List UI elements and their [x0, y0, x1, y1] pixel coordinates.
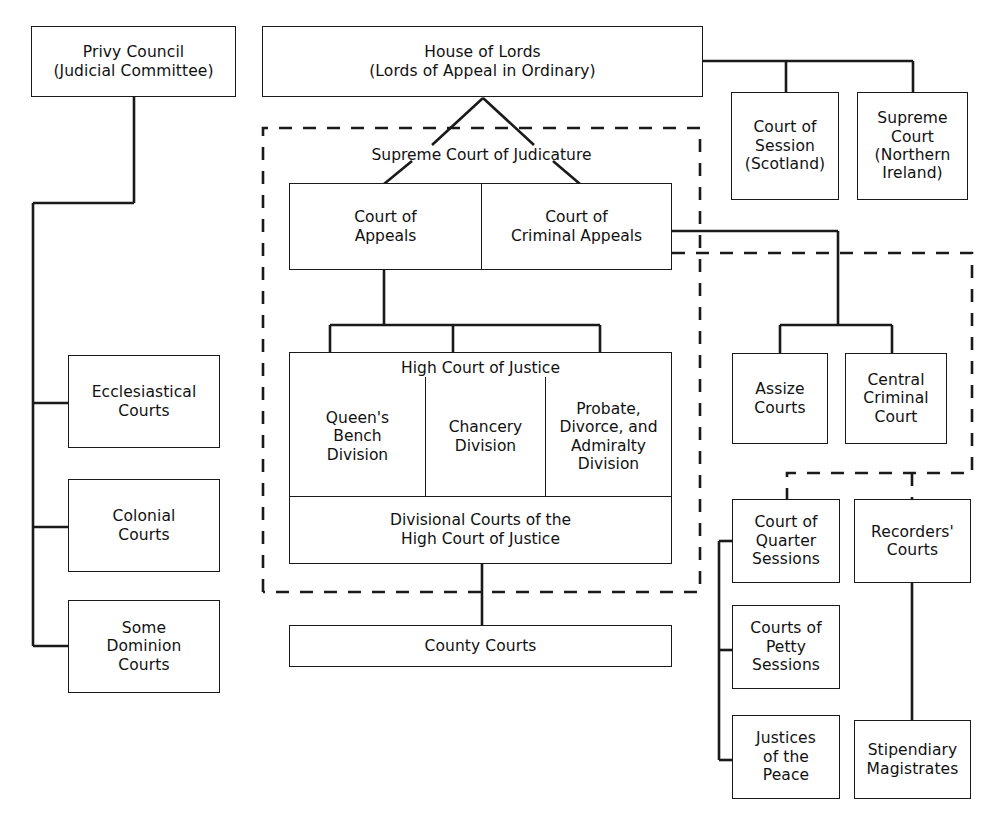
central-criminal-line-3: Court [874, 408, 917, 426]
quarter-sessions-line-3: Sessions [752, 550, 820, 568]
probate-line-2: Divorce, and [559, 418, 657, 436]
probate-line-3: Admiralty [571, 437, 646, 455]
node-county-courts[interactable]: County Courts [289, 625, 672, 667]
assize-line-2: Courts [754, 399, 805, 417]
node-stipendiary-magistrates[interactable]: Stipendiary Magistrates [854, 720, 971, 799]
court-of-session-line-3: (Scotland) [745, 155, 825, 173]
edge-lords-to-criminal-appeals [483, 98, 534, 145]
edge-judicature-to-court-of-appeals [384, 161, 412, 184]
high-court-title: High Court of Justice [290, 353, 671, 377]
criminal-appeals-line-2: Criminal Appeals [511, 227, 642, 245]
petty-sessions-line-2: Petty [766, 638, 806, 656]
colonial-line-2: Courts [118, 526, 169, 544]
court-of-appeals-line-2: Appeals [355, 227, 417, 245]
node-recorders-courts[interactable]: Recorders' Courts [854, 499, 971, 583]
colonial-line-1: Colonial [113, 507, 176, 525]
node-assize-courts[interactable]: Assize Courts [732, 353, 828, 444]
node-court-of-appeals[interactable]: Court of Appeals [290, 184, 481, 269]
petty-sessions-line-3: Sessions [752, 656, 820, 674]
court-of-session-line-1: Court of [753, 118, 816, 136]
node-court-of-quarter-sessions[interactable]: Court of Quarter Sessions [732, 499, 840, 583]
county-courts-line-1: County Courts [424, 637, 536, 655]
probate-line-4: Division [578, 455, 639, 473]
probate-line-1: Probate, [576, 400, 640, 418]
chancery-line-1: Chancery [449, 418, 523, 436]
high-court-of-justice-group: High Court of Justice Queen's Bench Divi… [289, 352, 672, 564]
divisional-courts-line-1: Divisional Courts of the [390, 511, 571, 530]
stipendiary-line-1: Stipendiary [868, 741, 958, 759]
node-supreme-court-northern-ireland[interactable]: Supreme Court (Northern Ireland) [857, 92, 968, 200]
ecclesiastical-line-2: Courts [118, 402, 169, 420]
node-court-of-criminal-appeals[interactable]: Court of Criminal Appeals [481, 184, 671, 269]
node-divisional-courts[interactable]: Divisional Courts of the High Court of J… [290, 497, 671, 563]
queens-bench-line-2: Bench [333, 427, 381, 445]
privy-council-line-2: (Judicial Committee) [53, 62, 213, 80]
assize-line-1: Assize [755, 380, 804, 398]
node-chancery-division[interactable]: Chancery Division [425, 377, 545, 496]
node-ecclesiastical-courts[interactable]: Ecclesiastical Courts [68, 355, 220, 448]
supreme-court-ni-line-3: (Northern [875, 146, 951, 164]
house-of-lords-line-2: (Lords of Appeal in Ordinary) [369, 62, 596, 80]
appeals-courts-group: Court of Appeals Court of Criminal Appea… [289, 183, 672, 270]
node-colonial-courts[interactable]: Colonial Courts [68, 479, 220, 572]
edge-lords-to-court-of-appeals [432, 98, 483, 145]
recorders-line-2: Courts [887, 541, 938, 559]
dominion-line-2: Dominion [106, 637, 181, 655]
privy-council-line-1: Privy Council [83, 43, 184, 61]
justices-line-3: Peace [763, 766, 809, 784]
node-courts-of-petty-sessions[interactable]: Courts of Petty Sessions [732, 605, 840, 689]
node-central-criminal-court[interactable]: Central Criminal Court [845, 353, 947, 444]
justices-line-2: of the [763, 748, 809, 766]
node-justices-of-the-peace[interactable]: Justices of the Peace [732, 715, 840, 799]
justices-line-1: Justices [756, 729, 816, 747]
court-system-diagram: Privy Council (Judicial Committee) House… [0, 0, 996, 824]
quarter-sessions-line-1: Court of [754, 513, 817, 531]
dominion-line-3: Courts [118, 656, 169, 674]
house-of-lords-line-1: House of Lords [424, 43, 541, 61]
supreme-court-ni-line-2: Court [891, 128, 934, 146]
edge-judicature-to-criminal-appeals [553, 161, 580, 184]
court-of-appeals-line-1: Court of [354, 208, 416, 226]
criminal-appeals-line-1: Court of [545, 208, 607, 226]
divisional-courts-line-2: High Court of Justice [401, 530, 560, 549]
court-of-session-line-2: Session [755, 137, 815, 155]
ecclesiastical-line-1: Ecclesiastical [92, 383, 197, 401]
chancery-line-2: Division [455, 437, 516, 455]
petty-sessions-line-1: Courts of [750, 619, 821, 637]
node-privy-council[interactable]: Privy Council (Judicial Committee) [31, 26, 236, 97]
central-criminal-line-2: Criminal [863, 389, 928, 407]
recorders-line-1: Recorders' [871, 523, 954, 541]
node-queens-bench-division[interactable]: Queen's Bench Division [290, 377, 425, 496]
queens-bench-line-1: Queen's [326, 409, 389, 427]
node-some-dominion-courts[interactable]: Some Dominion Courts [68, 600, 220, 693]
supreme-court-ni-line-4: Ireland) [882, 164, 942, 182]
supreme-court-ni-line-1: Supreme [877, 109, 947, 127]
central-criminal-line-1: Central [867, 371, 924, 389]
dominion-line-1: Some [122, 619, 166, 637]
high-court-divisions: Queen's Bench Division Chancery Division… [290, 377, 671, 497]
label-supreme-court-of-judicature: Supreme Court of Judicature [263, 146, 700, 164]
node-court-of-session[interactable]: Court of Session (Scotland) [731, 92, 839, 200]
node-house-of-lords[interactable]: House of Lords (Lords of Appeal in Ordin… [262, 26, 703, 97]
node-probate-divorce-admiralty-division[interactable]: Probate, Divorce, and Admiralty Division [545, 377, 671, 496]
stipendiary-line-2: Magistrates [867, 760, 959, 778]
quarter-sessions-line-2: Quarter [756, 532, 817, 550]
queens-bench-line-3: Division [327, 446, 388, 464]
